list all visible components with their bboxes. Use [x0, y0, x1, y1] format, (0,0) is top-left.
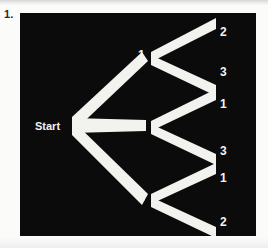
- branch-2-to-leaf-1: [151, 89, 216, 131]
- figure-root: 1. Start 1 2 3 2: [0, 0, 268, 248]
- branch-start-to-2: [72, 118, 146, 133]
- scan-artifact-top: [0, 0, 268, 5]
- node-label-2: 2: [138, 119, 145, 131]
- start-node-label: Start: [35, 120, 60, 132]
- branch-3-to-leaf-2: [151, 197, 216, 236]
- leaf-label-3-a: 1: [220, 172, 227, 184]
- branch-3-to-leaf-1: [151, 163, 216, 204]
- leaf-label-2-a: 1: [220, 98, 227, 110]
- leaf-label-2-b: 3: [220, 145, 227, 157]
- exercise-number: 1.: [4, 8, 14, 20]
- leaf-label-1-a: 2: [220, 26, 227, 38]
- branch-1-to-leaf-3: [151, 55, 216, 96]
- leaf-label-1-b: 3: [220, 66, 227, 78]
- node-label-3: 3: [138, 192, 145, 204]
- node-label-1: 1: [138, 49, 145, 61]
- branch-1-to-leaf-2: [151, 18, 216, 62]
- branch-start-to-3: [72, 120, 148, 205]
- leaf-label-3-b: 2: [220, 216, 227, 228]
- branch-2-to-leaf-3: [151, 124, 216, 165]
- tree-diagram-panel: Start 1 2 3 2 3 1 3 1 2: [20, 13, 256, 236]
- scan-artifact-bottom: [0, 238, 268, 248]
